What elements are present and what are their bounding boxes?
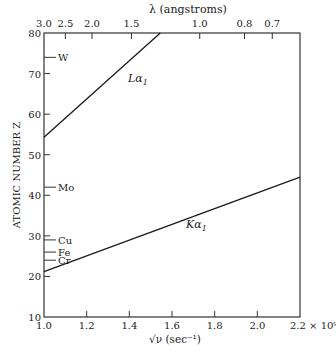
element-markers: WMoCuFeCr (44, 52, 74, 266)
y-tick-label: 80 (28, 28, 41, 39)
plot-border (44, 33, 300, 317)
y-tick-label: 20 (28, 271, 41, 282)
y-tick-label: 10 (28, 312, 41, 323)
series-lines (44, 33, 300, 272)
y-axis-title: ATOMIC NUMBER Z (11, 122, 22, 229)
la-series-label: Lα1 (127, 72, 148, 87)
moseley-plot: 1.01.21.41.61.82.02.2 × 10⁹1020304050607… (0, 0, 336, 352)
series-line (44, 177, 300, 272)
y-tick-label: 50 (28, 150, 41, 161)
element-label: Cr (58, 255, 71, 266)
top-tick-label: 1.5 (124, 18, 140, 29)
top-tick-label: 2.0 (84, 18, 100, 29)
x-tick-label: 1.4 (121, 320, 137, 331)
element-label: W (58, 52, 69, 63)
axis-ticks: 1.01.21.41.61.82.02.2 × 10⁹1020304050607… (28, 18, 336, 331)
top-tick-label: 1.0 (192, 18, 208, 29)
element-label: Mo (58, 182, 74, 193)
x-tick-label: 2.2 × 10⁹ (290, 320, 336, 331)
y-tick-label: 40 (28, 190, 41, 201)
y-tick-label: 70 (28, 69, 41, 80)
ka-series-label: Kα1 (185, 218, 207, 233)
top-axis-title: λ (angstroms) (149, 3, 227, 16)
element-label: Cu (58, 235, 73, 246)
x-tick-label: 2.0 (249, 320, 265, 331)
x-tick-label: 1.8 (207, 320, 223, 331)
top-tick-label: 0.8 (237, 18, 253, 29)
x-axis-title: √ν (sec⁻¹) (149, 333, 201, 345)
y-tick-label: 30 (28, 231, 41, 242)
top-tick-label: 3.0 (36, 18, 52, 29)
top-tick-label: 0.7 (264, 18, 280, 29)
x-tick-label: 1.2 (79, 320, 95, 331)
top-tick-label: 2.5 (57, 18, 73, 29)
y-tick-label: 60 (28, 109, 41, 120)
plot-frame (44, 33, 300, 317)
x-tick-label: 1.6 (164, 320, 180, 331)
